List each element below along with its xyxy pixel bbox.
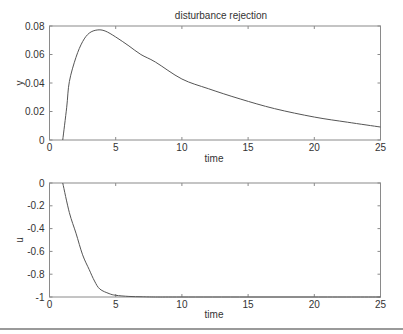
y-tick-label: -1 [36, 292, 45, 303]
figure: disturbance rejection 0510152025 00.020.… [0, 0, 403, 334]
x-tick-label: 5 [113, 142, 119, 153]
x-tick-label: 15 [243, 299, 255, 310]
x-tick-label: 0 [47, 299, 53, 310]
x-tick-label: 0 [47, 142, 53, 153]
x-axis-label-y: time [205, 153, 224, 164]
x-tick-label: 25 [375, 299, 387, 310]
series-y-line [63, 30, 381, 140]
x-ticks-u: 0510152025 [47, 183, 387, 310]
series-u-line [63, 183, 381, 297]
y-tick-label: 0.06 [25, 49, 45, 60]
y-tick-label: -0.8 [27, 269, 45, 280]
y-tick-label: 0 [39, 135, 45, 146]
y-axis-label-u: u [14, 237, 25, 243]
y-tick-label: 0.08 [25, 21, 45, 32]
x-tick-label: 5 [113, 299, 119, 310]
x-ticks-y: 0510152025 [47, 26, 387, 153]
y-ticks-u: 0-0.2-0.4-0.6-0.8-1 [27, 178, 380, 303]
panel-y: disturbance rejection 0510152025 00.020.… [14, 10, 386, 164]
x-tick-label: 20 [309, 299, 321, 310]
y-tick-label: 0 [39, 178, 45, 189]
y-tick-label: 0.02 [25, 106, 45, 117]
plot-frame-u [50, 183, 381, 297]
x-tick-label: 10 [176, 299, 188, 310]
x-tick-label: 10 [176, 142, 188, 153]
plot-frame-y [50, 26, 381, 140]
x-tick-label: 15 [243, 142, 255, 153]
bottom-divider [0, 328, 403, 330]
x-axis-label-u: time [205, 309, 224, 320]
y-tick-label: -0.2 [27, 200, 45, 211]
x-tick-label: 20 [309, 142, 321, 153]
x-tick-label: 25 [375, 142, 387, 153]
panel-u: 0510152025 0-0.2-0.4-0.6-0.8-1 time u [14, 178, 386, 321]
chart-title: disturbance rejection [175, 10, 267, 21]
y-tick-label: -0.4 [27, 223, 45, 234]
y-axis-label-y: y [14, 81, 25, 86]
y-tick-label: -0.6 [27, 246, 45, 257]
y-tick-label: 0.04 [25, 78, 45, 89]
y-ticks-y: 00.020.040.060.08 [25, 21, 380, 146]
